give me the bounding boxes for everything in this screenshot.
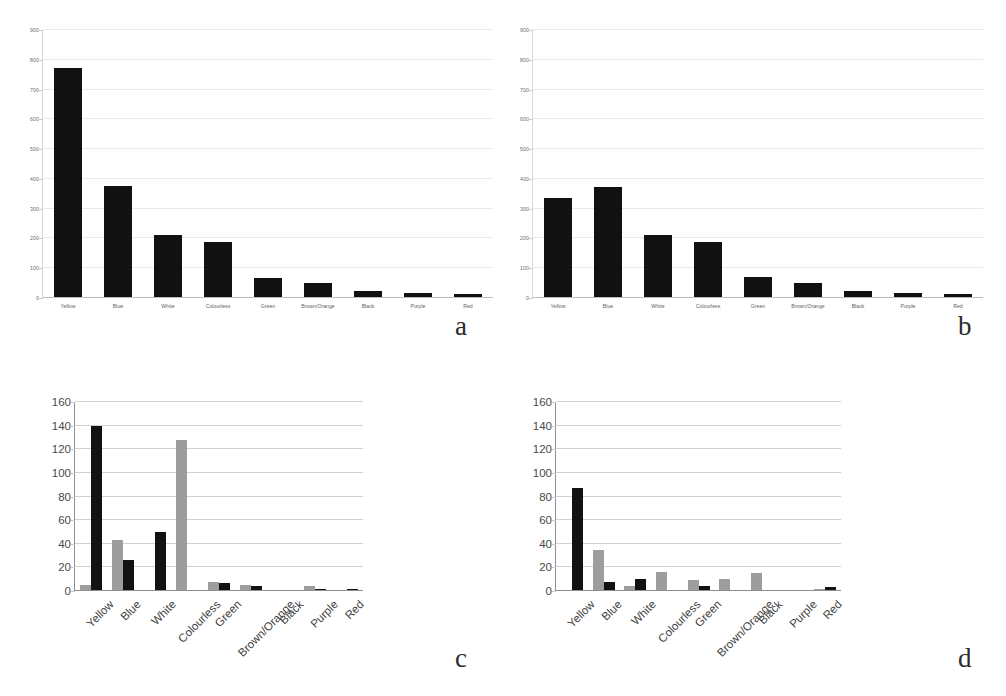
bar-slot xyxy=(293,30,343,298)
y-tick-mark xyxy=(39,60,43,61)
bar-slot xyxy=(651,402,683,591)
y-tick-mark xyxy=(39,179,43,180)
y-tick-mark xyxy=(529,30,533,31)
figure-panel-grid: 0100200300400500600700800900 YellowBlueW… xyxy=(0,0,1006,696)
x-tick-label-text: Black xyxy=(277,598,305,626)
bar-slot xyxy=(331,402,363,591)
panel-letter-d: d xyxy=(958,645,972,672)
y-tick-mark xyxy=(71,473,75,474)
bar-slot xyxy=(243,30,293,298)
x-tick-label: Purple xyxy=(393,303,443,309)
bar xyxy=(794,283,822,298)
bar-slot xyxy=(107,402,139,591)
y-tick-mark xyxy=(529,119,533,120)
x-tick-label-text: Red xyxy=(343,598,366,621)
x-tick-label: Red xyxy=(933,303,983,309)
x-tick-label-text: Blue xyxy=(599,598,624,623)
bar-slot xyxy=(267,402,299,591)
x-tick-label-text: White xyxy=(149,598,178,627)
bar-slot xyxy=(809,402,841,591)
x-tick-label: White xyxy=(143,303,193,309)
plot-area-d xyxy=(556,402,841,591)
bar-slot xyxy=(783,30,833,298)
bar-slot xyxy=(75,402,107,591)
panel-d: 020406080100120140160 YellowBlueWhiteCol… xyxy=(503,380,1006,696)
bar-body-colour xyxy=(176,440,187,591)
bar-slot xyxy=(93,30,143,298)
panel-b: 0100200300400500600700800900 YellowBlueW… xyxy=(503,0,1006,348)
bar-slot xyxy=(171,402,203,591)
bar xyxy=(744,277,772,298)
bar-slot xyxy=(235,402,267,591)
x-tick-label: Brown/Orange xyxy=(783,303,833,309)
bar-slot xyxy=(139,402,171,591)
y-tick-mark xyxy=(552,473,556,474)
bar-slot xyxy=(714,402,746,591)
x-tick-label: Colourless xyxy=(193,303,243,309)
bar xyxy=(54,68,82,298)
y-tick-mark xyxy=(71,449,75,450)
bar xyxy=(154,235,182,298)
x-tick-label: Blue xyxy=(583,303,633,309)
x-tick-label: Colourless xyxy=(683,303,733,309)
panel-letter-b: b xyxy=(958,313,972,340)
bar-slot xyxy=(299,402,331,591)
bar-decoration-colour xyxy=(123,560,134,591)
bar-slot xyxy=(733,30,783,298)
y-tick-mark xyxy=(39,209,43,210)
bar-body-colour xyxy=(656,572,667,591)
y-tick-mark xyxy=(552,402,556,403)
bar-slot xyxy=(883,30,933,298)
y-tick-mark xyxy=(71,520,75,521)
x-tick-label: Black xyxy=(343,303,393,309)
y-tick-mark xyxy=(71,591,75,592)
y-tick-mark xyxy=(552,520,556,521)
x-tick-label-text: White xyxy=(629,598,658,627)
panel-c: 020406080100120140160 YellowBlueWhiteCol… xyxy=(0,380,503,696)
bar xyxy=(694,242,722,298)
x-tick-label: Green xyxy=(733,303,783,309)
y-tick-mark xyxy=(39,90,43,91)
x-tick-label-text: Yellow xyxy=(565,598,597,630)
y-tick-mark xyxy=(71,426,75,427)
x-axis-line-b xyxy=(533,297,983,298)
bar-slot xyxy=(588,402,620,591)
panel-letter-c: c xyxy=(455,645,467,672)
bar-decoration-colour xyxy=(91,426,102,591)
y-tick-mark xyxy=(39,30,43,31)
x-tick-label-text: Blue xyxy=(118,598,143,623)
y-tick-mark xyxy=(529,238,533,239)
bar-body-colour xyxy=(751,573,762,591)
x-tick-label-text: Red xyxy=(821,598,844,621)
bar-series-b xyxy=(533,30,983,298)
x-axis-line-c xyxy=(75,590,363,591)
bar-slot xyxy=(556,402,588,591)
bar-slot xyxy=(143,30,193,298)
bar-slot xyxy=(343,30,393,298)
bar-slot xyxy=(203,402,235,591)
y-tick-mark xyxy=(71,402,75,403)
bar xyxy=(594,187,622,298)
bar xyxy=(544,198,572,298)
y-tick-mark xyxy=(529,149,533,150)
bar xyxy=(204,242,232,298)
y-tick-mark xyxy=(39,298,43,299)
x-tick-label: Yellow xyxy=(43,303,93,309)
x-tick-label: White xyxy=(633,303,683,309)
bar xyxy=(254,278,282,298)
y-tick-mark xyxy=(529,60,533,61)
bar-slot xyxy=(193,30,243,298)
y-tick-mark xyxy=(71,497,75,498)
y-tick-mark xyxy=(529,209,533,210)
bar-slot xyxy=(443,30,493,298)
x-tick-label-text: Yellow xyxy=(84,598,116,630)
x-tick-label: Brown/Orange xyxy=(293,303,343,309)
y-tick-mark xyxy=(552,567,556,568)
panel-letter-a: a xyxy=(455,313,467,340)
bar-slot xyxy=(746,402,778,591)
y-tick-mark xyxy=(552,497,556,498)
bar-slot xyxy=(43,30,93,298)
bar-slot xyxy=(583,30,633,298)
bar-slot xyxy=(833,30,883,298)
x-tick-label-text: Black xyxy=(756,598,784,626)
